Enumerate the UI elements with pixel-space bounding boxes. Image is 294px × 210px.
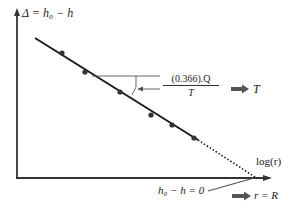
slope-denominator: T: [163, 86, 219, 98]
x-axis-label: log(r): [256, 155, 281, 167]
slope-formula: (0.366).Q T: [163, 73, 219, 98]
result-T-label: T: [253, 82, 260, 97]
diagram-canvas: [0, 0, 294, 210]
result-R-label: r = R: [254, 189, 278, 201]
extrapolation-line: [198, 140, 255, 177]
intercept-label: h₀ − h = 0: [158, 184, 204, 196]
slope-leader: [132, 87, 136, 95]
y-axis-label: Δ = h₀ − h: [22, 6, 73, 21]
result-T-arrow-shaft: [231, 87, 243, 91]
slope-numerator: (0.366).Q: [163, 73, 219, 86]
result-R-arrow-icon: [244, 192, 251, 201]
result-R-arrow-shaft: [232, 194, 245, 198]
y-axis-arrowhead-icon: [14, 8, 20, 16]
result-T-arrow-icon: [242, 85, 249, 94]
intercept-leader: [208, 178, 254, 191]
slope-arrow-icon: [137, 87, 143, 92]
x-axis-arrowhead-icon: [263, 175, 272, 181]
